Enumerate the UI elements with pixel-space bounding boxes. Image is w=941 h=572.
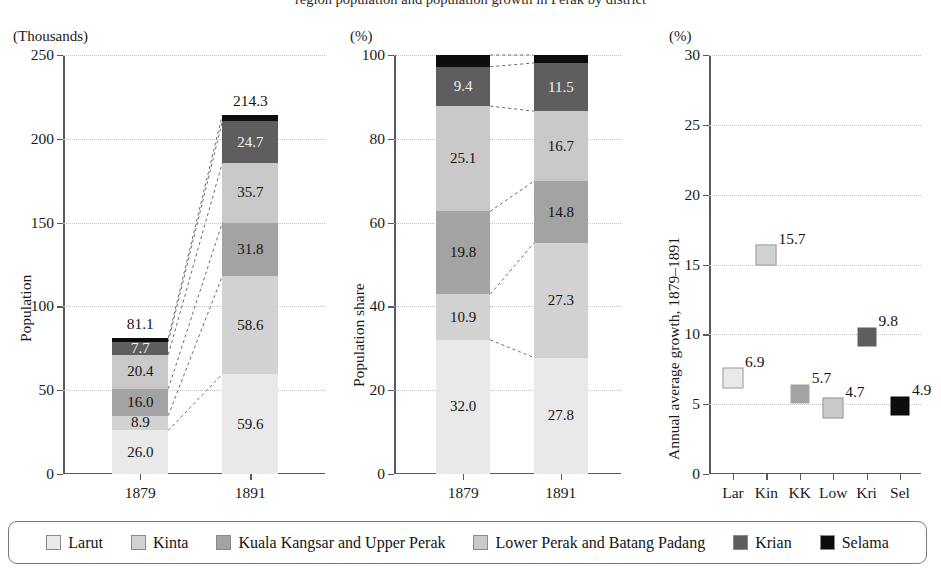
y-axis-tick-label: 10 (685, 325, 701, 343)
y-axis-tick-label: 20 (685, 185, 701, 203)
gridline (709, 195, 921, 196)
y-axis-line (394, 55, 396, 474)
x-axis-tick (250, 474, 251, 480)
legend-item[interactable]: Selama (820, 534, 889, 552)
bar-segment-krian[interactable]: 24.7 (222, 121, 278, 162)
unit-label-percent-growth: (%) (669, 28, 692, 45)
y-axis-tick (703, 334, 709, 335)
bar-segment-lower_perak[interactable]: 25.1 (436, 106, 490, 211)
legend-swatch-icon (131, 535, 146, 550)
data-point-krian[interactable] (857, 328, 876, 347)
legend-label: Krian (755, 534, 791, 552)
x-axis-tick-label: 1891 (545, 484, 576, 502)
bar-segment-larut[interactable]: 26.0 (112, 430, 168, 474)
bar-segment-kinta[interactable]: 27.3 (534, 243, 588, 357)
y-axis-tick-label: 80 (370, 129, 386, 147)
bar-segment-larut[interactable]: 59.6 (222, 374, 278, 474)
bar-segment-lower_perak[interactable]: 20.4 (112, 355, 168, 389)
legend-label: Larut (68, 534, 103, 552)
legend-label: Kinta (153, 534, 189, 552)
y-axis-tick-label: 40 (370, 297, 386, 315)
bar-segment-kuala_kangsar[interactable]: 14.8 (534, 181, 588, 243)
connector-line (168, 121, 222, 341)
y-axis-tick (57, 139, 63, 140)
y-axis-tick (388, 223, 394, 224)
stacked-bar[interactable]: 59.658.631.835.724.7 (222, 115, 278, 474)
bar-segment-larut[interactable]: 27.8 (534, 358, 588, 474)
y-axis-tick-label: 150 (31, 213, 54, 231)
y-axis-tick-label: 5 (692, 395, 700, 413)
x-axis-tick (833, 474, 834, 480)
bar-segment-kinta[interactable]: 8.9 (112, 416, 168, 431)
bar-segment-larut[interactable]: 32.0 (436, 340, 490, 474)
data-point-selama[interactable] (890, 396, 909, 415)
y-axis-tick (388, 474, 394, 475)
segment-connector-lines (63, 55, 325, 474)
y-axis-tick (703, 55, 709, 56)
bar-total-label: 214.3 (208, 92, 292, 110)
connector-line (490, 243, 534, 294)
data-point-larut[interactable] (723, 367, 744, 388)
y-axis-tick (703, 474, 709, 475)
connector-line (168, 115, 222, 338)
legend-label: Kuala Kangsar and Upper Perak (238, 534, 445, 552)
legend-item[interactable]: Kuala Kangsar and Upper Perak (216, 534, 445, 552)
legend-item[interactable]: Kinta (131, 534, 189, 552)
y-axis-tick-label: 50 (39, 381, 55, 399)
bar-segment-krian[interactable]: 7.7 (112, 342, 168, 355)
bar-segment-krian[interactable]: 9.4 (436, 67, 490, 106)
y-axis-tick (388, 306, 394, 307)
data-point-lower_perak[interactable] (823, 398, 844, 419)
bar-segment-selama[interactable] (112, 338, 168, 342)
y-axis-tick (703, 195, 709, 196)
connector-line (490, 63, 534, 67)
data-point-label: 4.7 (845, 383, 864, 401)
chart-panel-annual-growth: (%) Annual average growth, 1879–1891 051… (709, 42, 924, 514)
y-axis-tick (388, 139, 394, 140)
y-axis-title-annual-growth: Annual average growth, 1879–1891 (665, 237, 683, 460)
y-axis-tick-label: 0 (692, 465, 700, 483)
x-axis-tick (867, 474, 868, 480)
data-point-label: 5.7 (812, 369, 831, 387)
stacked-bar[interactable]: 26.08.916.020.47.7 (112, 338, 168, 474)
bar-segment-selama[interactable] (534, 55, 588, 63)
bar-segment-krian[interactable]: 11.5 (534, 63, 588, 111)
bar-segment-selama[interactable] (222, 115, 278, 122)
y-axis-line (63, 55, 65, 474)
gridline (709, 265, 921, 266)
legend-item[interactable]: Krian (733, 534, 791, 552)
x-axis-tick (766, 474, 767, 480)
bar-segment-selama[interactable] (436, 55, 490, 67)
stacked-bar[interactable]: 27.827.314.816.711.5 (534, 55, 588, 474)
legend-item[interactable]: Larut (46, 534, 103, 552)
bar-segment-kuala_kangsar[interactable]: 19.8 (436, 211, 490, 294)
stacked-bar[interactable]: 32.010.919.825.19.4 (436, 55, 490, 474)
y-axis-tick-label: 25 (685, 115, 701, 133)
gridline (63, 390, 325, 391)
y-axis-tick-label: 20 (370, 381, 386, 399)
legend-item[interactable]: Lower Perak and Batang Padang (473, 534, 705, 552)
chart-panel-population-share: (%) Population share 020406080100187932.… (394, 42, 624, 514)
y-axis-tick-label: 0 (46, 465, 54, 483)
data-point-kuala_kangsar[interactable] (790, 385, 809, 404)
bar-segment-kinta[interactable]: 58.6 (222, 276, 278, 374)
bar-segment-kinta[interactable]: 10.9 (436, 294, 490, 340)
y-axis-tick-label: 30 (685, 46, 701, 64)
data-point-label: 9.8 (879, 312, 898, 330)
legend-label: Selama (842, 534, 889, 552)
y-axis-tick (57, 474, 63, 475)
data-point-label: 15.7 (778, 230, 805, 248)
y-axis-tick-label: 200 (31, 129, 54, 147)
y-axis-tick-label: 250 (31, 46, 54, 64)
data-point-kinta[interactable] (756, 244, 777, 265)
x-axis-line (709, 473, 921, 475)
plot-area-population: 050100150200250187926.08.916.020.47.781.… (63, 55, 325, 474)
y-axis-tick (57, 55, 63, 56)
bar-segment-lower_perak[interactable]: 16.7 (534, 111, 588, 181)
bar-segment-kuala_kangsar[interactable]: 16.0 (112, 389, 168, 416)
plot-area-population-share: 020406080100187932.010.919.825.19.418912… (394, 55, 621, 474)
bar-segment-lower_perak[interactable]: 35.7 (222, 163, 278, 223)
bar-segment-kuala_kangsar[interactable]: 31.8 (222, 223, 278, 276)
gridline (709, 125, 921, 126)
x-axis-tick-label: Lar (722, 484, 744, 502)
